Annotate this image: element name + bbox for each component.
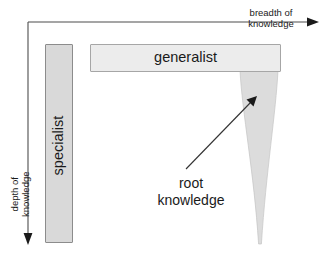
diagram-canvas (0, 0, 329, 256)
root-knowledge-annotation-label: root knowledge (131, 175, 251, 208)
breadth-axis-label: breadth of knowledge (234, 7, 308, 29)
depth-axis-label: depth of knowledge (9, 157, 31, 231)
root-knowledge-spike (240, 70, 278, 244)
depth-arrowhead-icon (24, 233, 33, 245)
generalist-bar-label: generalist (90, 49, 281, 66)
breadth-arrowhead-icon (307, 18, 319, 27)
root-knowledge-arrow-line (186, 101, 252, 169)
knowledge-diagram: breadth of knowledge depth of knowledge … (0, 0, 329, 256)
specialist-bar-label: specialist (50, 72, 67, 220)
